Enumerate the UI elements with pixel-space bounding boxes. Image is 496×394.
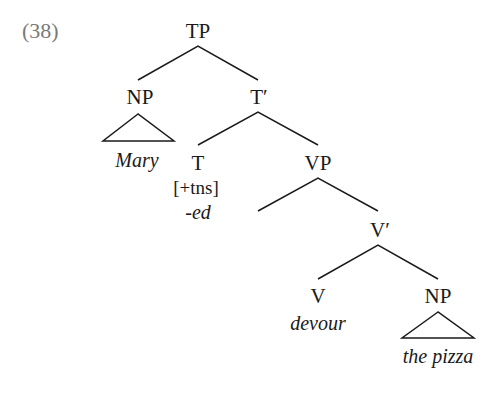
node-vbar: V′ bbox=[370, 220, 390, 241]
edge-vp bbox=[258, 178, 378, 211]
node-tbar: T′ bbox=[250, 87, 267, 108]
node-tp: TP bbox=[186, 21, 211, 42]
morpheme-ed: -ed bbox=[185, 202, 211, 222]
edge-tp bbox=[138, 46, 258, 80]
terminal-devour: devour bbox=[290, 313, 346, 333]
edge-vbar bbox=[318, 245, 438, 279]
node-t: T bbox=[192, 153, 205, 174]
tree-edges bbox=[0, 0, 496, 394]
triangle-object-np bbox=[402, 312, 474, 338]
triangle-subject-np bbox=[103, 114, 174, 141]
terminal-mary: Mary bbox=[115, 150, 158, 170]
node-subject-np: NP bbox=[127, 87, 154, 108]
edge-tbar bbox=[198, 112, 318, 145]
node-v: V bbox=[310, 286, 325, 307]
terminal-the-pizza: the pizza bbox=[403, 346, 474, 366]
feature-tns: [+tns] bbox=[173, 178, 219, 197]
node-vp: VP bbox=[305, 153, 332, 174]
node-object-np: NP bbox=[425, 286, 452, 307]
